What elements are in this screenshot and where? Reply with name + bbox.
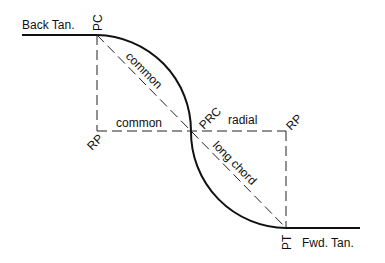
radial-label: radial — [228, 113, 257, 127]
rp-left-label: RP — [84, 131, 106, 153]
long-chord-label: long chord — [210, 138, 260, 188]
reverse-curve-diagram: Back Tan. PC common common RP PRC radial… — [0, 0, 385, 263]
rp-right-label: RP — [283, 111, 305, 133]
long-chord-line — [97, 35, 286, 228]
back-tangent-label: Back Tan. — [22, 18, 74, 32]
pc-label: PC — [91, 14, 105, 31]
prc-label: PRC — [196, 104, 224, 132]
diagram-canvas: Back Tan. PC common common RP PRC radial… — [0, 0, 385, 263]
pt-label: PT — [280, 234, 294, 250]
common-radius-label: common — [116, 116, 162, 130]
forward-tangent-label: Fwd. Tan. — [302, 236, 354, 250]
common-chord-label: common — [123, 49, 165, 91]
